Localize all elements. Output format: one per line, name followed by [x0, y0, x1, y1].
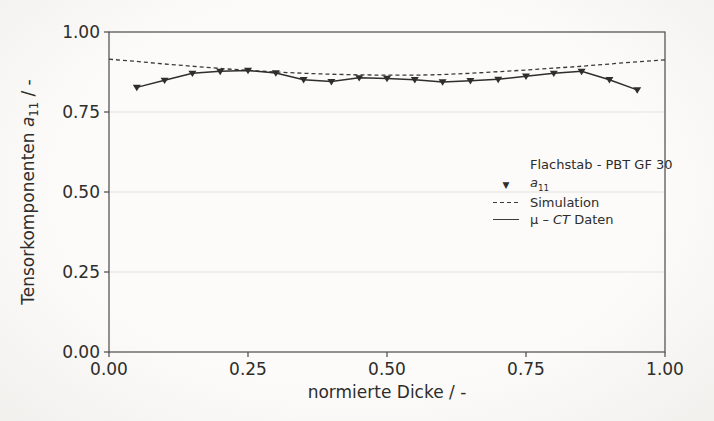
x-tick-label: 1.00	[635, 359, 695, 379]
y-tick-label: 1.00	[48, 22, 100, 42]
legend-entry-simulation: Simulation	[492, 194, 673, 211]
solid-line-icon	[492, 219, 520, 221]
dashed-line-icon	[492, 202, 520, 204]
x-tick-label: 0.25	[218, 359, 278, 379]
y-axis-label: Tensorkomponenten a11 / -	[18, 79, 44, 304]
figure: 1.00 0.75 0.50 0.25 0.00 0.00 0.25 0.50 …	[0, 0, 714, 421]
y-tick-label: 0.50	[48, 182, 100, 202]
y-tick-label: 0.75	[48, 102, 100, 122]
legend: Flachstab - PBT GF 30 ▼ a11 Simulation μ…	[492, 157, 673, 228]
x-tick-label: 0.00	[79, 359, 139, 379]
x-tick-label: 0.75	[496, 359, 556, 379]
legend-entry-ct-daten-label: μ – CT Daten	[530, 212, 614, 228]
x-tick-label: 0.50	[357, 359, 417, 379]
legend-entry-a11: ▼ a11	[492, 177, 673, 194]
legend-entry-a11-label: a11	[530, 175, 549, 196]
legend-title: Flachstab - PBT GF 30	[530, 157, 673, 173]
triangle-down-marker-icon: ▼	[492, 181, 520, 190]
legend-entry-simulation-label: Simulation	[530, 195, 599, 211]
x-axis-label: normierte Dicke / -	[308, 382, 467, 402]
legend-entry-ct-daten: μ – CT Daten	[492, 211, 673, 228]
y-tick-label: 0.25	[48, 262, 100, 282]
